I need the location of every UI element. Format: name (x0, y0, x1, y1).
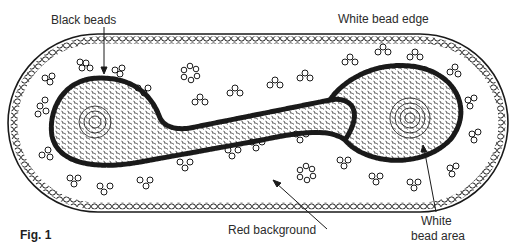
label-red-background: Red background (228, 224, 316, 237)
rosette-top (181, 63, 200, 83)
label-black-beads: Black beads (51, 14, 116, 27)
beadwork-illustration (0, 0, 526, 247)
black-beads-arrowhead (101, 67, 107, 74)
beadwork-figure: Black beads White bead edge Fig. 1 Red b… (0, 0, 526, 247)
label-white-bead-area-line2: bead area (411, 230, 465, 243)
label-white-bead-edge: White bead edge (338, 13, 429, 26)
label-white-bead-area-line1: White (421, 215, 452, 228)
rosette-bottom (297, 163, 316, 183)
figure-caption: Fig. 1 (20, 228, 51, 242)
